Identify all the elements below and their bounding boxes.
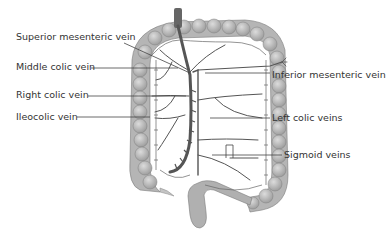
appendix <box>160 188 174 196</box>
label-ileocolic-vein: Ileocolic vein <box>16 111 78 122</box>
label-sigmoid-veins: Sigmoid veins <box>284 149 351 160</box>
label-superior-mesenteric-vein: Superior mesenteric vein <box>16 31 136 42</box>
vascular-arcades <box>152 40 268 190</box>
label-left-colic-veins: Left colic veins <box>272 112 343 123</box>
label-middle-colic-vein: Middle colic vein <box>16 61 95 72</box>
label-inferior-mesenteric-vein: Inferior mesenteric vein <box>272 69 386 80</box>
colon-veins-diagram: Superior mesenteric vein Middle colic ve… <box>0 0 389 235</box>
leader-lines <box>77 43 282 158</box>
label-right-colic-vein: Right colic vein <box>16 89 89 100</box>
rectum <box>188 181 252 228</box>
